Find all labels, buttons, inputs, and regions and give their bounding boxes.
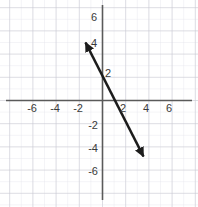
coordinate-plane-figure: -6 -4 -2 2 4 6 6 4 2 -2 -4 -6 — [0, 0, 198, 207]
y-tick-label: 2 — [105, 68, 111, 79]
x-tick-label: -2 — [73, 103, 82, 114]
y-tick-label: -6 — [88, 166, 97, 177]
x-tick-label: 2 — [120, 103, 126, 114]
y-tick-label: 4 — [91, 38, 97, 49]
x-tick-label: -6 — [27, 103, 36, 114]
x-tick-label: 4 — [143, 103, 149, 114]
x-tick-label: 6 — [166, 103, 172, 114]
y-tick-label: -2 — [88, 120, 97, 131]
x-tick-label: -4 — [50, 103, 59, 114]
y-tick-label: -4 — [88, 143, 97, 154]
y-tick-label: 6 — [91, 12, 97, 23]
